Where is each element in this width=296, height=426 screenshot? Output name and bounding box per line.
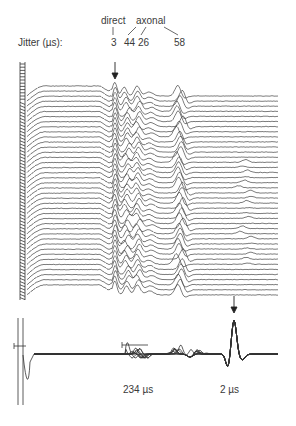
arrow-icon-stable-spike — [231, 296, 237, 313]
trace — [27, 246, 278, 262]
trace — [27, 149, 278, 165]
trace — [27, 199, 278, 215]
trace — [27, 189, 278, 205]
trace — [27, 174, 278, 190]
trace — [27, 87, 278, 103]
superimposed-traces — [14, 318, 278, 405]
trace — [27, 266, 278, 283]
arrow-icon-direct — [112, 62, 118, 79]
stacked-traces — [27, 82, 278, 297]
trace — [27, 276, 278, 292]
stimulus-artifact — [20, 62, 25, 300]
trace-plot — [0, 0, 296, 426]
trace — [27, 82, 278, 98]
trace — [27, 102, 278, 118]
trace — [27, 235, 278, 251]
trace — [27, 128, 278, 144]
trace — [27, 117, 278, 133]
trace — [27, 184, 278, 200]
trace — [27, 133, 278, 149]
trace — [27, 138, 278, 154]
trace — [27, 210, 278, 226]
trace — [27, 123, 278, 139]
trace — [27, 281, 278, 297]
trace — [27, 92, 278, 108]
leader-lines — [113, 27, 178, 35]
trace — [27, 205, 278, 221]
